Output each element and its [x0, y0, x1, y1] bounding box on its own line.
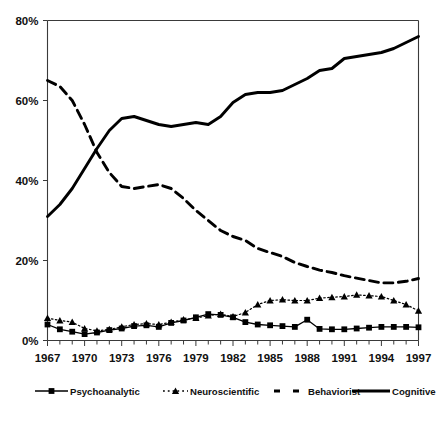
x-tick-label: 1970 — [72, 352, 98, 364]
x-tick-label: 1985 — [257, 352, 283, 364]
x-tick-label: 1997 — [406, 352, 432, 364]
marker-square — [45, 322, 51, 328]
marker-square — [292, 324, 298, 330]
y-tick-label: 80% — [15, 15, 38, 27]
marker-square — [280, 323, 286, 329]
legend-marker-square — [49, 388, 55, 394]
marker-square — [255, 322, 261, 328]
y-tick-label: 0% — [22, 335, 39, 347]
marker-square — [69, 329, 75, 335]
marker-square — [416, 324, 422, 330]
x-tick-label: 1976 — [146, 352, 172, 364]
marker-square — [304, 317, 310, 323]
x-tick-label: 1991 — [332, 352, 358, 364]
x-tick-label: 1982 — [220, 352, 246, 364]
marker-square — [341, 326, 347, 332]
x-tick-label: 1967 — [35, 352, 61, 364]
marker-square — [267, 322, 273, 328]
marker-square — [379, 324, 385, 330]
marker-square — [57, 326, 63, 332]
marker-square — [354, 326, 360, 332]
marker-square — [242, 319, 248, 325]
x-tick-label: 1979 — [183, 352, 209, 364]
marker-square — [366, 325, 372, 331]
x-tick-label: 1988 — [294, 352, 320, 364]
marker-square — [391, 324, 397, 330]
line-chart: 0%20%40%60%80% 1967197019731976197919821… — [0, 0, 444, 422]
legend-label: Cognitive — [392, 386, 436, 397]
chart-container: 0%20%40%60%80% 1967197019731976197919821… — [0, 0, 444, 422]
legend-label: Psychoanalytic — [70, 386, 141, 397]
legend-label: Neuroscientific — [190, 386, 260, 397]
marker-square — [317, 326, 323, 332]
marker-square — [403, 324, 409, 330]
y-tick-label: 40% — [15, 175, 38, 187]
marker-square — [82, 331, 88, 337]
x-tick-label: 1973 — [109, 352, 135, 364]
x-tick-label: 1994 — [369, 352, 395, 364]
marker-square — [329, 326, 335, 332]
y-tick-label: 20% — [15, 255, 38, 267]
x-axis-tick-labels: 1967197019731976197919821985198819911994… — [35, 352, 432, 364]
y-tick-label: 60% — [15, 95, 38, 107]
